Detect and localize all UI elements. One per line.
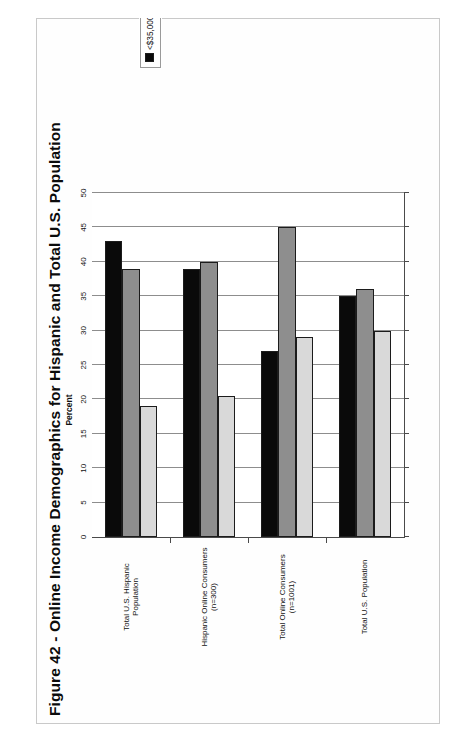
figure-content: Figure 42 - Online Income Demographics f… bbox=[36, 18, 440, 724]
gridline bbox=[92, 192, 404, 193]
x-axis-tick bbox=[404, 502, 409, 503]
bar bbox=[105, 241, 122, 537]
x-axis-tick-label: 5 bbox=[79, 500, 88, 504]
plot-area: 05101520253035404550Total U.S. HispanicP… bbox=[92, 193, 405, 538]
category-label-line: Hispanic Online Consumers bbox=[200, 541, 210, 653]
category-label: Total U.S. HispanicPopulation bbox=[122, 541, 141, 653]
category-label-line: (n=300) bbox=[209, 541, 219, 653]
x-axis-tick-label: 15 bbox=[79, 429, 88, 438]
bar bbox=[122, 269, 139, 537]
bar bbox=[261, 351, 278, 537]
x-axis-tick-label: 25 bbox=[79, 361, 88, 370]
bar-chart: Percent 05101520253035404550Total U.S. H… bbox=[80, 164, 416, 656]
bar bbox=[278, 227, 295, 537]
category-separator-tick bbox=[248, 537, 249, 543]
category-label-line: Total Online Consumers bbox=[278, 541, 288, 653]
x-axis-tick bbox=[404, 433, 409, 434]
x-axis-title: Percent bbox=[64, 164, 74, 656]
category-separator-tick bbox=[170, 537, 171, 543]
bar bbox=[374, 331, 391, 537]
gridline bbox=[92, 261, 404, 262]
x-axis-tick-label: 20 bbox=[79, 395, 88, 404]
bar bbox=[183, 269, 200, 537]
x-axis-tick bbox=[404, 398, 409, 399]
gridline bbox=[92, 226, 404, 227]
black-swatch-icon bbox=[145, 53, 154, 62]
bar bbox=[356, 289, 373, 537]
category-label-line: Total U.S. Population bbox=[360, 541, 370, 653]
category-label-line: Total U.S. Hispanic bbox=[122, 541, 132, 653]
x-axis-tick bbox=[404, 467, 409, 468]
category-label: Hispanic Online Consumers(n=300) bbox=[200, 541, 219, 653]
x-axis-tick bbox=[404, 295, 409, 296]
scanned-page: Figure 42 - Online Income Demographics f… bbox=[0, 0, 458, 743]
x-axis-tick-label: 45 bbox=[79, 223, 88, 232]
rotated-figure-wrapper: Figure 42 - Online Income Demographics f… bbox=[36, 18, 440, 724]
x-axis-tick-label: 30 bbox=[79, 326, 88, 335]
x-axis-tick bbox=[404, 226, 409, 227]
x-axis-tick bbox=[404, 364, 409, 365]
x-axis-tick bbox=[404, 536, 409, 537]
bar bbox=[296, 337, 313, 537]
bar bbox=[218, 396, 235, 537]
legend-label: <$35,000 bbox=[146, 18, 155, 50]
figure-caption: Figure 42 - Online Income Demographics f… bbox=[46, 26, 64, 716]
x-axis-tick-label: 35 bbox=[79, 292, 88, 301]
x-axis-tick bbox=[404, 192, 409, 193]
x-axis-tick bbox=[404, 330, 409, 331]
bar bbox=[339, 296, 356, 537]
category-label-line: (n=1001) bbox=[287, 541, 297, 653]
x-axis-tick-label: 0 bbox=[79, 535, 88, 539]
x-axis-tick-label: 40 bbox=[79, 257, 88, 266]
category-label: Total U.S. Population bbox=[360, 541, 370, 653]
legend-item: <$35,000 bbox=[145, 18, 155, 62]
category-separator-tick bbox=[326, 537, 327, 543]
bar bbox=[200, 262, 217, 537]
bar bbox=[140, 406, 157, 537]
x-axis-tick-label: 50 bbox=[79, 189, 88, 198]
x-axis-tick-label: 10 bbox=[79, 464, 88, 473]
category-label: Total Online Consumers(n=1001) bbox=[278, 541, 297, 653]
category-label-line: Population bbox=[131, 541, 141, 653]
chart-legend: <$35,000$35,000-$74,999$75,000 or more bbox=[140, 18, 161, 68]
x-axis-tick bbox=[404, 261, 409, 262]
